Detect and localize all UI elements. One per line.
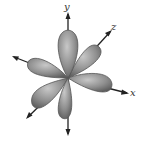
axis-label-y: y bbox=[64, 2, 70, 12]
axis-label-x: x bbox=[130, 88, 136, 98]
axis-label-z: z bbox=[111, 22, 116, 32]
lobe-x-pos bbox=[68, 73, 112, 92]
orbital-diagram bbox=[0, 0, 141, 145]
